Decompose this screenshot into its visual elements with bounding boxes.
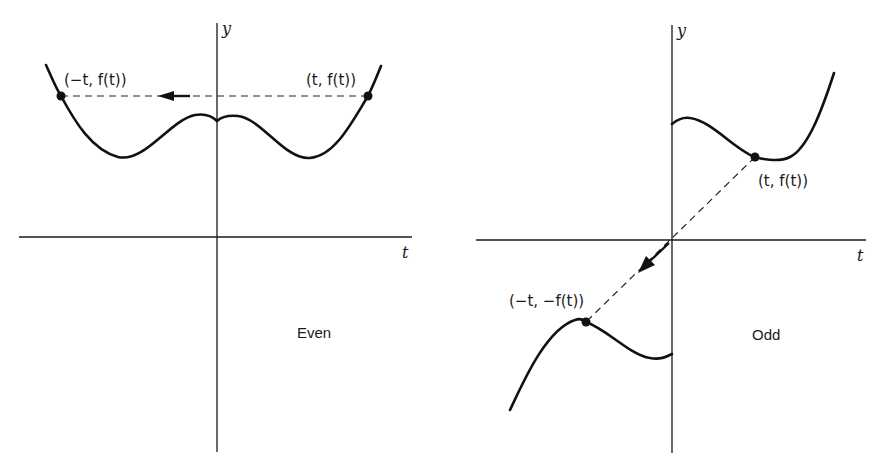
- odd-y-axis-label: y: [676, 21, 687, 40]
- even-caption: Even: [297, 324, 331, 341]
- odd-arrow-down-left-icon: [638, 243, 669, 273]
- odd-point-t: [751, 153, 760, 162]
- even-label-neg-t: (−t, f(t)): [64, 71, 127, 89]
- odd-label-neg-t: (−t, −f(t)): [509, 292, 584, 310]
- even-arrow-left-icon: [158, 91, 190, 101]
- even-t-axis-label: t: [402, 243, 409, 262]
- even-point-t: [364, 92, 373, 101]
- even-y-axis-label: y: [221, 19, 232, 38]
- odd-t-axis-label: t: [857, 246, 864, 265]
- odd-caption: Odd: [752, 326, 780, 343]
- even-panel: y t (−t, f(t)) (t, f(t)) Even: [19, 19, 412, 452]
- even-point-neg-t: [57, 92, 66, 101]
- odd-point-neg-t: [582, 318, 591, 327]
- even-label-t: (t, f(t)): [306, 71, 356, 89]
- odd-function-curve-negative: [510, 319, 672, 410]
- odd-function-curve-positive: [672, 73, 834, 160]
- odd-panel: y t (t, f(t)) (−t, −f(t)) Odd: [476, 21, 866, 453]
- odd-label-t: (t, f(t)): [758, 172, 808, 190]
- even-odd-figure: y t (−t, f(t)) (t, f(t)) Even y t: [0, 0, 883, 467]
